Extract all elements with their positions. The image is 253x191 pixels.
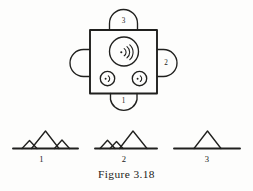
port-right: 2 (158, 50, 177, 77)
waveform-1-peak-2 (32, 131, 60, 149)
emitter-small-left-circle (100, 71, 114, 85)
port-top: 3 (110, 10, 138, 30)
figure-drawing: 3 2 1 (0, 0, 253, 191)
port-right-label: 2 (164, 59, 168, 67)
figure-caption: Figure 3.18 (0, 168, 253, 180)
waveform-2-peak-1 (100, 140, 115, 148)
waveform-3-label: 3 (205, 154, 209, 164)
emitter-small-right (132, 71, 146, 85)
emitter-large (110, 37, 139, 66)
device-body-square (90, 30, 157, 94)
emitter-small-left-dot (105, 78, 107, 80)
waveform-2-peak-3 (120, 131, 148, 149)
waveform-3-peak-1 (194, 131, 221, 149)
port-top-label: 3 (122, 17, 126, 25)
port-left-shape (70, 50, 89, 77)
waveform-2: 2 (95, 131, 157, 164)
waveform-2-label: 2 (122, 154, 126, 164)
waveform-1: 1 (13, 131, 78, 164)
emitter-small-left (100, 71, 114, 85)
figure-3-18: 3 2 1 (0, 0, 253, 191)
emitter-large-circle (110, 37, 139, 66)
emitter-large-dot (120, 51, 122, 53)
port-left (70, 50, 89, 77)
emitter-small-left-arc (108, 76, 109, 82)
emitter-small-right-arc (140, 76, 141, 82)
emitter-small-right-dot (137, 78, 139, 80)
emitter-large-arc-2 (127, 47, 130, 58)
waveform-3: 3 (174, 131, 240, 164)
port-bottom-label: 1 (122, 97, 126, 105)
waveform-1-peak-3 (55, 140, 70, 149)
emitter-large-arc-3 (130, 45, 133, 60)
emitter-small-right-circle (132, 71, 146, 85)
waveform-1-label: 1 (39, 154, 43, 164)
emitter-large-arc-1 (124, 49, 126, 56)
port-bottom: 1 (111, 94, 138, 111)
